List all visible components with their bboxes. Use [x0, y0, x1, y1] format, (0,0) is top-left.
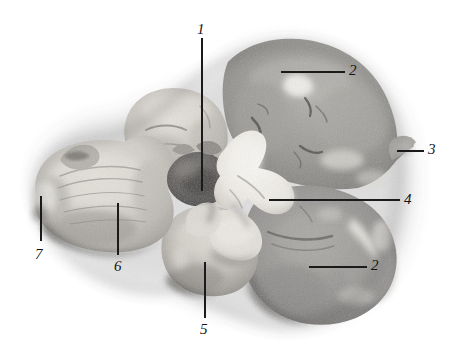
label-4: 4 [404, 192, 412, 207]
label-2-bottom: 2 [371, 258, 379, 273]
label-2-top: 2 [349, 63, 357, 78]
label-1: 1 [197, 22, 205, 37]
label-5: 5 [200, 322, 208, 337]
label-6: 6 [114, 259, 122, 274]
label-7: 7 [35, 247, 43, 262]
figure-root: 1 2 3 4 2 5 6 7 [0, 0, 457, 359]
specimen-photograph [0, 0, 457, 359]
label-3: 3 [428, 142, 436, 157]
